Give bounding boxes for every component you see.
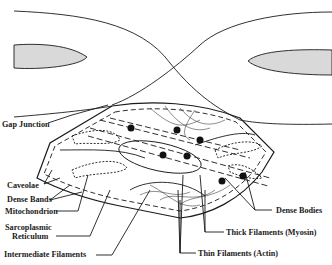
leader-caveolae <box>44 170 60 184</box>
right-nucleus <box>248 50 332 75</box>
label-gap-junction: Gap Junction <box>2 121 50 129</box>
mitochondrion-3 <box>215 142 262 158</box>
mitochondrion-2 <box>72 161 127 178</box>
label-dense-bands: Dense Bands <box>7 196 52 204</box>
inner-membrane <box>44 109 266 211</box>
label-intermediate-filaments: Intermediate Filaments <box>4 251 86 259</box>
label-thick-filaments: Thick Filaments (Myosin) <box>226 229 317 237</box>
sarcoplasmic-reticulum-1 <box>60 150 145 158</box>
label-caveolae: Caveolae <box>7 182 39 190</box>
label-thin-filaments: Thin Filaments (Actin) <box>198 250 278 258</box>
label-reticulum: Reticulum <box>12 233 48 241</box>
intermediate-filaments-lower <box>140 185 230 206</box>
label-sarcoplasmic: Sarcoplasmic <box>5 224 52 232</box>
label-mitochondrion: Mitochondrion <box>5 208 58 216</box>
leader-dense-bands <box>50 185 82 200</box>
sarcoplasmic-reticulum-3 <box>130 182 205 196</box>
label-dense-bodies: Dense Bodies <box>276 207 322 215</box>
left-nucleus <box>14 44 87 68</box>
central-nucleus <box>116 135 204 180</box>
cell-membrane <box>37 103 274 218</box>
sarcoplasmic-reticulum-2 <box>195 133 255 145</box>
